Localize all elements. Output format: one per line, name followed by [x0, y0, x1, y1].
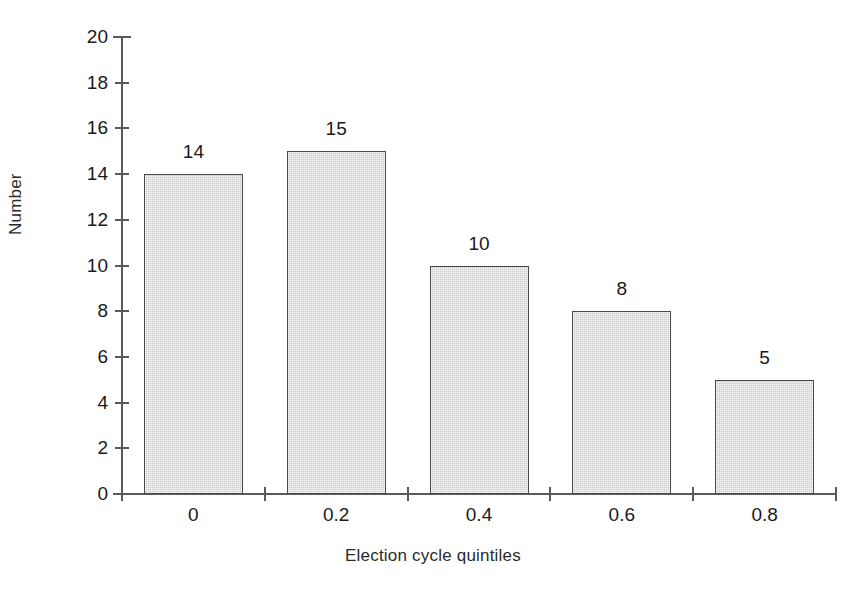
y-axis-tick-label: 12 — [58, 210, 108, 229]
bar — [144, 174, 243, 494]
y-axis-tick-label: 8 — [58, 301, 108, 320]
y-axis-tick — [115, 127, 129, 129]
x-axis-tick-label: 0.4 — [419, 505, 539, 524]
bar-value-label: 15 — [276, 119, 396, 138]
y-axis-tick-label: 4 — [58, 393, 108, 412]
y-axis-title: Number — [6, 85, 46, 235]
x-axis-tick — [835, 487, 837, 501]
y-axis-tick — [115, 402, 129, 404]
x-axis-tick-label: 0.2 — [276, 505, 396, 524]
y-axis-tick — [115, 447, 129, 449]
bar — [287, 151, 386, 494]
bar-value-label: 10 — [419, 234, 539, 253]
x-axis-tick — [121, 487, 123, 501]
x-axis-tick-label: 0 — [133, 505, 253, 524]
bar-value-label: 8 — [562, 279, 682, 298]
y-axis-tick — [115, 82, 129, 84]
y-axis-tick-label: 10 — [58, 256, 108, 275]
y-axis-tick — [115, 173, 129, 175]
y-axis-tick-label: 16 — [58, 118, 108, 137]
x-axis-tick — [692, 487, 694, 501]
y-axis-tick-label: 20 — [58, 27, 108, 46]
x-axis-tick-label: 0.8 — [705, 505, 825, 524]
bar-value-label: 5 — [705, 348, 825, 367]
y-axis-tick-label: 18 — [58, 73, 108, 92]
x-axis-tick-label: 0.6 — [562, 505, 682, 524]
x-axis-tick — [264, 487, 266, 501]
x-axis-tick — [407, 487, 409, 501]
y-axis-tick — [115, 310, 129, 312]
x-axis-title: Election cycle quintiles — [0, 546, 866, 566]
y-axis-tick-label: 6 — [58, 347, 108, 366]
y-axis-tick — [115, 356, 129, 358]
bar-chart: Number 02468101214161820 00.20.40.60.8 1… — [0, 0, 866, 602]
y-axis-tick — [115, 265, 129, 267]
bar-value-label: 14 — [133, 142, 253, 161]
bar — [430, 266, 529, 495]
y-axis-tick-label: 14 — [58, 164, 108, 183]
y-axis-tick — [115, 219, 129, 221]
x-axis-tick — [549, 487, 551, 501]
y-axis-tick — [113, 36, 131, 38]
y-axis-tick-label: 0 — [58, 484, 108, 503]
bar — [572, 311, 671, 494]
y-axis-tick-label: 2 — [58, 438, 108, 457]
bar — [715, 380, 814, 494]
